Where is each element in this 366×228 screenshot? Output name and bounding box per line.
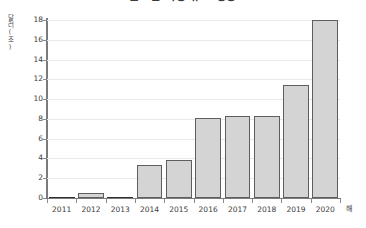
x-tick-mark: [281, 199, 282, 203]
gridline-12: [47, 79, 340, 80]
x-tick-label-2019: 2019: [280, 205, 312, 214]
gridline-16: [47, 40, 340, 41]
x-tick-label-2018: 2018: [251, 205, 283, 214]
y-tick-label: 14: [21, 56, 43, 64]
y-tick-label: 4: [21, 154, 43, 162]
x-axis-title: 해: [346, 205, 352, 214]
bar-2020: [312, 20, 338, 198]
x-tick-mark: [223, 199, 224, 203]
x-tick-label-2011: 2011: [46, 205, 78, 214]
x-tick-mark: [47, 199, 48, 203]
y-tick-label: 12: [21, 75, 43, 83]
x-tick-label-2015: 2015: [163, 205, 195, 214]
x-tick-label-2013: 2013: [104, 205, 136, 214]
x-tick-mark: [76, 199, 77, 203]
plot-area: [47, 20, 340, 198]
y-tick-label: 0: [21, 194, 43, 202]
x-tick-mark: [106, 199, 107, 203]
x-tick-label-2012: 2012: [75, 205, 107, 214]
x-tick-mark: [164, 199, 165, 203]
bar-chart: 글로벌 시장 규모 성장 달러(조) 024681012141618 20112…: [0, 0, 366, 228]
bar-2014: [137, 165, 163, 198]
bar-2019: [283, 85, 309, 198]
bar-2018: [254, 116, 280, 198]
y-tick-label: 2: [21, 174, 43, 182]
y-tick-label: 6: [21, 135, 43, 143]
bar-2015: [166, 160, 192, 198]
x-tick-mark: [194, 199, 195, 203]
x-tick-label-2020: 2020: [309, 205, 341, 214]
y-tick-label: 18: [21, 16, 43, 24]
x-tick-mark: [311, 199, 312, 203]
bar-2017: [225, 116, 251, 198]
y-tick-label: 16: [21, 36, 43, 44]
bar-2016: [195, 118, 221, 198]
y-tick-label: 10: [21, 95, 43, 103]
gridline-18: [47, 20, 340, 21]
x-tick-mark: [135, 199, 136, 203]
y-axis-tick-labels: 024681012141618: [19, 20, 43, 198]
x-tick-label-2014: 2014: [134, 205, 166, 214]
y-tick-label: 8: [21, 115, 43, 123]
gridline-14: [47, 60, 340, 61]
chart-title: 글로벌 시장 규모 성장: [0, 0, 366, 3]
x-tick-label-2016: 2016: [192, 205, 224, 214]
x-tick-mark: [252, 199, 253, 203]
y-axis-title: 달러(조): [2, 14, 14, 51]
x-tick-label-2017: 2017: [221, 205, 253, 214]
x-tick-mark: [340, 199, 341, 203]
